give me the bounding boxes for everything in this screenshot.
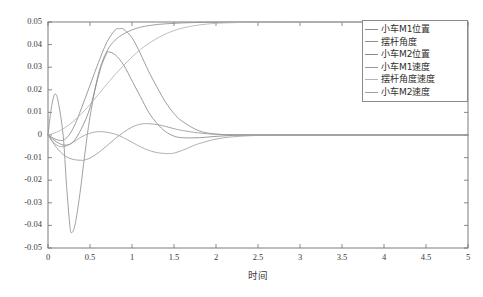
x-tick-label: 3.5: [327, 253, 357, 262]
x-tick-label: 4.5: [411, 253, 441, 262]
x-tick-label: 0.5: [75, 253, 105, 262]
legend-item-3[interactable]: 小车M1速度: [365, 61, 464, 74]
legend-swatch-icon-4: [365, 79, 378, 80]
legend-label-4: 摆杆角度速度: [381, 73, 435, 86]
y-tick-label: -0.04: [0, 220, 42, 229]
x-tick-label: 3: [285, 253, 315, 262]
figure-container: 0.050.040.030.020.010-0.01-0.02-0.03-0.0…: [0, 0, 483, 297]
legend-item-1[interactable]: 摆杆角度: [365, 36, 464, 49]
x-axis-title: 时间: [208, 268, 308, 282]
legend-swatch-icon-2: [365, 54, 378, 55]
y-tick-label: 0.05: [0, 17, 42, 26]
legend-swatch-icon-3: [365, 67, 378, 68]
legend-label-5: 小车M2速度: [381, 86, 431, 99]
y-tick-label: -0.01: [0, 153, 42, 162]
y-tick-label: 0: [0, 130, 42, 139]
y-tick-label: -0.03: [0, 198, 42, 207]
x-tick-label: 1.5: [159, 253, 189, 262]
x-tick-label: 1: [117, 253, 147, 262]
y-tick-label: 0.01: [0, 107, 42, 116]
legend-item-4[interactable]: 摆杆角度速度: [365, 73, 464, 86]
y-tick-label: -0.05: [0, 243, 42, 252]
legend-label-2: 小车M2位置: [381, 48, 431, 61]
y-tick-label: 0.03: [0, 62, 42, 71]
x-tick-label: 2.5: [243, 253, 273, 262]
legend: 小车M1位置 摆杆角度 小车M2位置 小车M1速度 摆杆角度速度 小车M2速度: [362, 20, 468, 102]
y-tick-label: -0.02: [0, 175, 42, 184]
legend-label-0: 小车M1位置: [381, 23, 431, 36]
legend-item-2[interactable]: 小车M2位置: [365, 48, 464, 61]
x-tick-label: 5: [453, 253, 483, 262]
y-tick-label: 0.02: [0, 85, 42, 94]
x-tick-label: 4: [369, 253, 399, 262]
y-tick-label: 0.04: [0, 40, 42, 49]
legend-label-1: 摆杆角度: [381, 36, 417, 49]
legend-item-0[interactable]: 小车M1位置: [365, 23, 464, 36]
legend-swatch-icon-1: [365, 41, 378, 42]
x-tick-label: 2: [201, 253, 231, 262]
legend-label-3: 小车M1速度: [381, 61, 431, 74]
x-tick-label: 0: [33, 253, 63, 262]
legend-swatch-icon-0: [365, 29, 378, 30]
legend-item-5[interactable]: 小车M2速度: [365, 86, 464, 99]
series-line-3: [48, 124, 468, 161]
legend-swatch-icon-5: [365, 92, 378, 93]
